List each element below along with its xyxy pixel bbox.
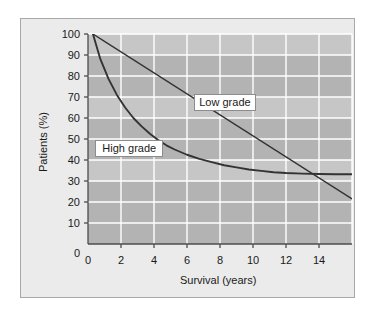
y-tick-label: 10 <box>42 218 80 229</box>
y-tick-label: 70 <box>42 92 80 103</box>
x-tick-label: 2 <box>107 255 135 266</box>
x-tick-label: 4 <box>140 255 168 266</box>
x-tick-label: 6 <box>173 255 201 266</box>
y-tick-label: 30 <box>42 176 80 187</box>
x-tick-label: 14 <box>305 255 333 266</box>
y-tick-label: 50 <box>42 134 80 145</box>
callout-low-grade: Low grade <box>194 94 256 111</box>
y-tick-label: 60 <box>42 113 80 124</box>
x-tick-label: 12 <box>272 255 300 266</box>
y-tick-label: 100 <box>42 29 80 40</box>
x-tick-label: 10 <box>239 255 267 266</box>
callout-high-grade: High grade <box>95 140 163 157</box>
y-tick-label: 90 <box>42 50 80 61</box>
y-tick-label: 80 <box>42 71 80 82</box>
y-tick-label: 20 <box>42 197 80 208</box>
y-tick-label: 40 <box>42 155 80 166</box>
x-axis-label: Survival (years) <box>180 275 256 286</box>
x-tick-label: 0 <box>74 255 102 266</box>
x-tick-label: 8 <box>206 255 234 266</box>
